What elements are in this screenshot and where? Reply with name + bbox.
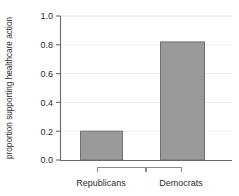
bar-republicans: [81, 131, 123, 160]
x-tick-label-democrats: Democrats: [159, 178, 203, 188]
y-tick-label-0.6: 0.6: [40, 69, 53, 79]
bar-democrats: [161, 42, 205, 160]
chart-canvas: 1.0 0.8 0.6 0.4 0.2 0.0 proportion suppo…: [0, 0, 239, 196]
bar-chart-figure: 1.0 0.8 0.6 0.4 0.2 0.0 proportion suppo…: [0, 0, 239, 196]
y-tick-label-0.4: 0.4: [40, 98, 53, 108]
y-axis-title: proportion supporting healthcare action: [5, 17, 14, 159]
y-tick-label-1.0: 1.0: [40, 11, 53, 21]
y-tick-label-0.0: 0.0: [40, 155, 53, 165]
y-tick-label-0.8: 0.8: [40, 40, 53, 50]
y-tick-label-0.2: 0.2: [40, 127, 53, 137]
x-tick-label-republicans: Republicans: [76, 178, 126, 188]
